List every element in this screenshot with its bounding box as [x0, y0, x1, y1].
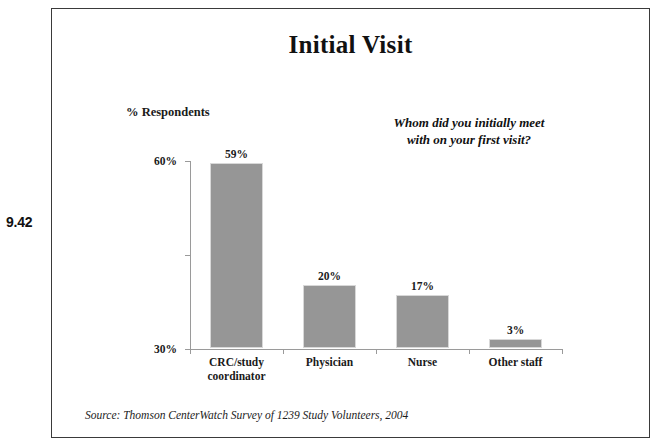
bar-rect[interactable]: [396, 295, 449, 348]
bar-item[interactable]: 3%: [489, 339, 542, 348]
slide-number: 9.42: [6, 214, 32, 230]
x-tick-mark: [562, 349, 563, 354]
y-axis-title: % Respondents: [126, 105, 210, 120]
bar-value-label: 3%: [507, 324, 524, 336]
page-title: Initial Visit: [52, 31, 649, 59]
x-tick-mark: [190, 349, 191, 354]
bar-value-label: 20%: [318, 270, 341, 282]
bar-rect[interactable]: [489, 339, 542, 348]
source-note: Source: Thomson CenterWatch Survey of 12…: [85, 409, 408, 421]
bar-value-label: 59%: [225, 148, 248, 160]
x-tick-mark: [283, 349, 284, 354]
y-tick-label: 60%: [154, 155, 177, 167]
y-tick-mark: 60%: [185, 161, 190, 162]
bar-rect[interactable]: [210, 163, 263, 348]
y-tick-label: 30%: [154, 343, 177, 355]
bar-item[interactable]: 59%: [210, 163, 263, 348]
x-tick-mark: [469, 349, 470, 354]
plot-area: 0%30%60% 59%20%17%3% CRC/study coordinat…: [190, 161, 562, 349]
bar-item[interactable]: 17%: [396, 295, 449, 348]
x-category-label: CRC/study coordinator: [190, 355, 283, 383]
bar-rect[interactable]: [303, 285, 356, 348]
slide-frame: Initial Visit % Respondents Whom did you…: [51, 8, 650, 438]
bar-value-label: 17%: [411, 280, 434, 292]
x-category-label: Other staff: [469, 355, 562, 369]
x-tick-mark: [376, 349, 377, 354]
y-tick-mark: 30%: [185, 255, 190, 256]
bar-item[interactable]: 20%: [303, 285, 356, 348]
x-category-label: Physician: [283, 355, 376, 369]
question-callout: Whom did you initially meet with on your…: [389, 114, 549, 148]
y-axis-line: [190, 161, 191, 350]
x-category-label: Nurse: [376, 355, 469, 369]
